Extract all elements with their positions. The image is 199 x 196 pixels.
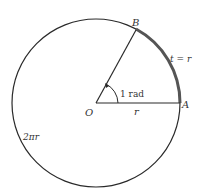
label-circumference: 2πr [22,132,40,142]
radian-diagram: B O A t = r 1 rad r 2πr [0,0,199,196]
label-o: O [85,107,93,118]
label-a: A [181,99,189,110]
angle-arc [106,84,118,103]
label-arc-length: t = r [170,54,192,64]
label-b: B [131,17,139,28]
label-angle: 1 rad [120,89,144,99]
label-radius: r [134,106,140,117]
